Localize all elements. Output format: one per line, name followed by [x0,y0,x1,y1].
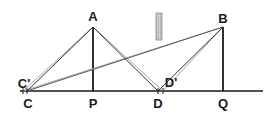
label-Q: Q [218,97,228,110]
label-D: D [153,97,162,110]
label-C-prime: C' [18,77,30,90]
label-C: C [23,97,32,110]
ray-A-Dprime [93,27,163,91]
label-B: B [218,12,227,25]
label-D-prime: D' [165,76,177,89]
label-P: P [89,97,98,110]
label-A: A [88,10,97,23]
reflection-diagram [0,0,278,118]
ray-A-C [27,27,93,91]
obstacle-rectangle [156,13,162,40]
